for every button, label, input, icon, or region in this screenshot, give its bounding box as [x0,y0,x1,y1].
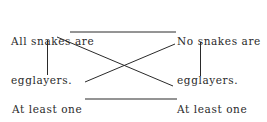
node-bottom-left-line1: At least one [12,103,82,116]
node-bottom-left: At least one snake is an egglayer. [12,77,82,122]
node-top-left-line1: All snakes are [11,35,94,48]
edge-diagonal-tr-bl [85,44,175,82]
square-of-opposition-diagram: All snakes are egglayers. No snakes are … [0,0,267,122]
node-bottom-right: At least one snake is not an egglayer. [177,77,249,122]
node-top-right-line1: No snakes are [177,35,261,48]
node-bottom-right-line1: At least one [177,103,249,116]
